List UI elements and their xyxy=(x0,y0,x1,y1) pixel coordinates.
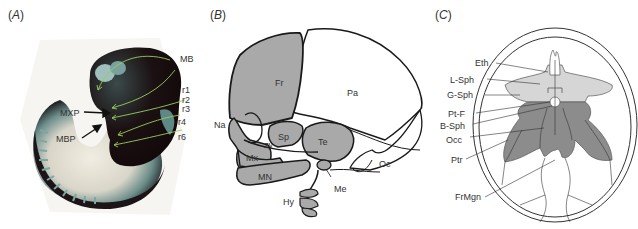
label-mbp: MBP xyxy=(56,134,76,144)
embryo-illustration: MB r1 r2 r3 r4 r6 MXP MBP xyxy=(0,0,210,229)
label-occ: Occ xyxy=(446,135,463,145)
label-mx: Mx xyxy=(246,153,258,163)
lateral-skull-diagram: Fr Pa Na Sp zy Te Mx MN Oc Me Hy xyxy=(205,0,430,229)
label-ptr: Ptr xyxy=(451,155,463,165)
label-me: Me xyxy=(334,184,347,194)
label-g-sph: G-Sph xyxy=(447,90,473,100)
label-mn: MN xyxy=(258,172,272,182)
label-frmgn: FrMgn xyxy=(455,192,481,202)
label-oc: Oc xyxy=(379,159,391,169)
label-pt-f: Pt-F xyxy=(448,109,466,119)
label-pa: Pa xyxy=(347,88,358,98)
label-mb: MB xyxy=(180,54,194,64)
panel-label-b: (B) xyxy=(210,8,226,22)
panel-a: (A) xyxy=(0,0,210,229)
panel-c: Eth L-Sph G-Sph Pt-F B-Sph Occ Ptr FrMgn… xyxy=(425,0,638,229)
label-eth: Eth xyxy=(475,58,489,68)
label-b-sph: B-Sph xyxy=(440,121,465,131)
label-hy: Hy xyxy=(283,197,294,207)
label-fr: Fr xyxy=(275,78,284,88)
panel-label-c: (C) xyxy=(435,8,452,22)
label-r1: r1 xyxy=(182,85,190,95)
label-te: Te xyxy=(318,137,328,147)
label-r6: r6 xyxy=(178,132,186,142)
panel-b: Fr Pa Na Sp zy Te Mx MN Oc Me Hy (B) xyxy=(205,0,430,229)
cranial-base-diagram: Eth L-Sph G-Sph Pt-F B-Sph Occ Ptr FrMgn xyxy=(425,0,638,229)
label-sp: Sp xyxy=(278,132,289,142)
label-r4: r4 xyxy=(178,117,186,127)
label-r3: r3 xyxy=(182,104,190,114)
label-na: Na xyxy=(214,120,226,130)
label-l-sph: L-Sph xyxy=(450,75,474,85)
label-zy: zy xyxy=(264,140,274,150)
label-mxp: MXP xyxy=(60,108,80,118)
